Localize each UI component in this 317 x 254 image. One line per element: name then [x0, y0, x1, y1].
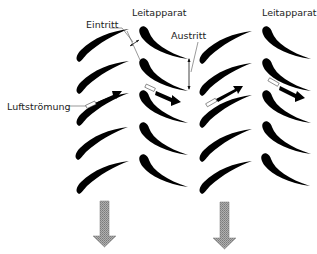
output-arrow-icon: [213, 202, 236, 249]
stator-blade: [262, 90, 311, 123]
stator-blade: [139, 122, 188, 155]
rotor-blade: [200, 63, 252, 96]
rotor-blade: [77, 61, 129, 94]
compressor-cascade-diagram: Eintritt Leitapparat Austritt Leitappara…: [0, 0, 317, 254]
rotor-blade: [200, 161, 252, 194]
inlet-label: Eintritt: [86, 19, 119, 30]
outlet-dimension: [188, 58, 191, 90]
outlet-label: Austritt: [171, 30, 206, 41]
rotor-row-2: [200, 31, 252, 194]
outlet-leader-line: [191, 42, 198, 72]
inlet-leader-line: [122, 28, 133, 42]
guide-vane-label-2: Leitapparat: [262, 7, 317, 18]
flow-arrow-icon: [86, 91, 122, 108]
stator-row-1: [139, 26, 188, 187]
inlet-dimension: [127, 31, 140, 60]
rotor-blade: [77, 161, 129, 194]
rotor-row-1: [76, 29, 129, 194]
stator-row-2: [261, 26, 311, 186]
airflow-label: Luftströmung: [7, 101, 71, 112]
stator-blade: [261, 153, 310, 186]
output-arrow-icon: [93, 201, 116, 247]
stator-blade: [262, 121, 311, 154]
rotor-blade: [76, 127, 128, 160]
rotor-blade: [77, 93, 129, 126]
rotor-blade: [200, 129, 252, 162]
stator-blade: [139, 154, 188, 187]
rotor-blade: [77, 29, 129, 62]
rotor-blade: [200, 31, 252, 64]
stator-blade: [262, 26, 311, 59]
stator-blade: [262, 58, 311, 91]
guide-vane-label-1: Leitapparat: [132, 7, 187, 18]
rotor-blade: [200, 95, 252, 128]
